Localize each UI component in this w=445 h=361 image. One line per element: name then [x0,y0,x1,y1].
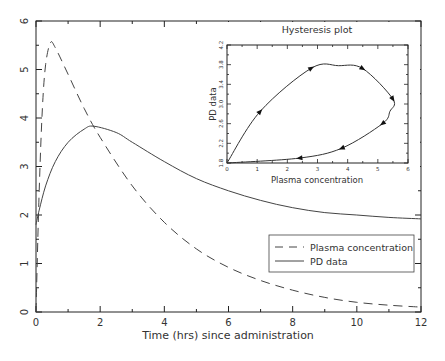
svg-text:6: 6 [19,18,30,24]
svg-text:3.4: 3.4 [218,79,224,88]
svg-text:2.2: 2.2 [218,139,224,148]
svg-text:2: 2 [19,212,30,218]
svg-text:2: 2 [97,317,103,328]
svg-text:3.0: 3.0 [218,99,224,108]
svg-text:1.8: 1.8 [218,158,224,167]
svg-text:3: 3 [316,166,320,172]
inset-y-axis-label: PD data [208,87,218,121]
svg-text:4: 4 [346,166,350,172]
svg-text:1: 1 [19,260,30,266]
chart-canvas: 0246810120123456 Time (hrs) since admini… [0,0,445,361]
legend-label-plasma: Plasma concentration [310,242,413,253]
svg-text:8: 8 [289,317,295,328]
svg-text:6: 6 [225,317,231,328]
svg-text:12: 12 [415,317,428,328]
svg-text:0: 0 [33,317,39,328]
svg-text:1: 1 [255,166,259,172]
legend: Plasma concentration PD data [269,235,414,272]
svg-text:5: 5 [19,66,30,72]
inset-x-axis-label: Plasma concentration [271,175,363,185]
inset-hysteresis-plot: 01234561.82.22.63.03.43.84.2 Hysteresis … [208,22,420,185]
svg-text:0: 0 [19,309,30,315]
svg-text:3: 3 [19,163,30,169]
svg-text:4.2: 4.2 [218,41,224,50]
svg-text:3.8: 3.8 [218,60,224,69]
inset-title: Hysteresis plot [282,24,353,35]
svg-text:4: 4 [19,115,30,121]
legend-label-pd: PD data [310,256,347,267]
svg-text:5: 5 [376,166,380,172]
svg-text:2: 2 [286,166,290,172]
main-x-axis-label: Time (hrs) since administration [141,329,314,342]
svg-text:10: 10 [350,317,363,328]
svg-text:0: 0 [225,166,229,172]
svg-text:6: 6 [406,166,410,172]
svg-text:4: 4 [161,317,167,328]
svg-text:2.6: 2.6 [218,119,224,128]
